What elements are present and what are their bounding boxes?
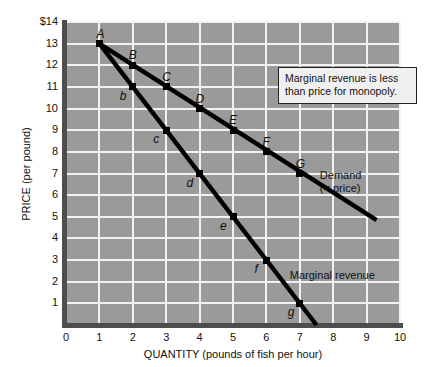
y-axis-title: PRICE (per pound) [20, 84, 32, 264]
x-tick-label: 9 [354, 331, 380, 343]
data-point-A [96, 40, 103, 47]
data-point-label-f: f [254, 263, 257, 275]
y-tick-label: $14 [2, 16, 58, 27]
data-point-label-b: b [120, 90, 127, 102]
data-point-d [196, 170, 203, 177]
data-point-g [296, 300, 303, 307]
data-point-label-d: d [187, 177, 194, 189]
data-point-label-C: C [162, 71, 171, 83]
x-tick-label: 8 [320, 331, 346, 343]
y-tick-label: 12 [2, 59, 58, 70]
data-point-C [163, 83, 170, 90]
data-point-label-D: D [196, 93, 205, 105]
data-point-label-g: g [288, 306, 295, 318]
data-point-e [230, 213, 237, 220]
x-tick-label: 3 [153, 331, 179, 343]
x-tick-label: 7 [287, 331, 313, 343]
x-tick-label: 10 [387, 331, 413, 343]
curve-label-marginal-revenue: Marginal revenue [290, 269, 375, 282]
data-point-G [296, 170, 303, 177]
data-point-label-c: c [153, 133, 159, 145]
data-point-b [129, 83, 136, 90]
curve-label-demand: Demand(= price) [320, 169, 362, 195]
data-point-F [263, 148, 270, 155]
data-point-label-B: B [129, 49, 137, 61]
data-point-label-e: e [220, 220, 227, 232]
curve-label-line-2: (= price) [320, 182, 362, 195]
x-tick-label: 4 [187, 331, 213, 343]
callout-annotation: Marginal revenue is less than price for … [278, 67, 417, 104]
x-tick-label: 0 [53, 331, 79, 343]
x-tick-label: 5 [220, 331, 246, 343]
y-tick-label: 1 [2, 297, 58, 308]
curve-label-line-1: Demand [320, 169, 362, 182]
chart-figure: 12345678910111213$14 012345678910 ABCDEF… [0, 0, 436, 367]
callout-line-2: than price for monopoly. [285, 85, 411, 98]
data-point-label-A: A [96, 28, 104, 40]
y-tick-label: 13 [2, 38, 58, 49]
x-tick-label: 2 [120, 331, 146, 343]
data-point-f [263, 257, 270, 264]
x-tick-label: 6 [253, 331, 279, 343]
curve-label-line-1: Marginal revenue [290, 269, 375, 282]
callout-line-1: Marginal revenue is less [285, 72, 411, 85]
data-point-label-E: E [229, 114, 237, 126]
x-tick-label: 1 [86, 331, 112, 343]
data-point-B [129, 62, 136, 69]
data-point-label-F: F [262, 136, 269, 148]
data-point-c [163, 127, 170, 134]
data-point-label-G: G [296, 158, 305, 170]
data-point-D [196, 105, 203, 112]
y-tick-label: 2 [2, 276, 58, 287]
data-point-E [230, 127, 237, 134]
x-axis-title: QUANTITY (pounds of fish per hour) [66, 348, 400, 360]
